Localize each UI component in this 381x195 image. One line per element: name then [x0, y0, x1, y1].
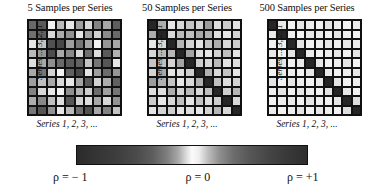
heatmap-cell — [65, 49, 74, 59]
y-axis-label: Series ... 3, 2, 1 — [274, 10, 284, 94]
heatmap-cell — [222, 68, 231, 78]
heatmap-cell — [204, 39, 213, 49]
panel-5-samples: 5 Samples per Series Series ... 3, 2, 1 … — [6, 0, 128, 140]
heatmap-cell — [93, 58, 102, 68]
heatmap-cell — [333, 30, 342, 40]
heatmap-cell — [342, 87, 351, 97]
heatmap-cell — [84, 39, 93, 49]
heatmap-cell — [176, 58, 185, 68]
heatmap-cell — [287, 87, 296, 97]
heatmap-cell — [315, 77, 324, 87]
heatmap-cell — [167, 87, 176, 97]
heatmap-cell — [185, 87, 194, 97]
heatmap-cell — [47, 39, 56, 49]
heatmap-cell — [185, 39, 194, 49]
heatmap-cell — [232, 58, 241, 68]
panels-row: 5 Samples per Series Series ... 3, 2, 1 … — [0, 0, 381, 140]
heatmap-cell — [204, 87, 213, 97]
heatmap-cell — [75, 87, 84, 97]
heatmap-cell — [112, 49, 121, 59]
colorbar-label-min: ρ = − 1 — [53, 168, 143, 186]
heatmap-cell — [157, 96, 166, 106]
heatmap-cell — [222, 20, 231, 30]
heatmap-cell — [167, 96, 176, 106]
heatmap-cell — [102, 106, 111, 116]
heatmap-cell — [296, 68, 305, 78]
heatmap-cell — [176, 77, 185, 87]
heatmap-cell — [65, 68, 74, 78]
heatmap-cell — [204, 20, 213, 30]
heatmap-cell — [232, 30, 241, 40]
heatmap-cell — [47, 58, 56, 68]
heatmap-cell — [185, 58, 194, 68]
heatmap-cell — [112, 58, 121, 68]
heatmap-cell — [47, 87, 56, 97]
heatmap-cell — [315, 87, 324, 97]
heatmap-cell — [65, 20, 74, 30]
heatmap-cell — [75, 30, 84, 40]
heatmap-cell — [315, 49, 324, 59]
heatmap-cell — [75, 96, 84, 106]
heatmap-cell — [167, 77, 176, 87]
heatmap-wrapper-0: Series ... 3, 2, 1 — [27, 19, 122, 116]
heatmap-cell — [56, 49, 65, 59]
heatmap-cell — [102, 30, 111, 40]
heatmap-cell — [352, 96, 361, 106]
heatmap-cell — [222, 39, 231, 49]
heatmap-cell — [232, 20, 241, 30]
heatmap-cell — [112, 106, 121, 116]
heatmap-cell — [167, 20, 176, 30]
heatmap-cell — [167, 106, 176, 116]
heatmap-cell — [75, 68, 84, 78]
heatmap-cell — [324, 30, 333, 40]
heatmap-cell — [195, 39, 204, 49]
heatmap-cell — [75, 77, 84, 87]
heatmap-cell — [93, 30, 102, 40]
heatmap-cell — [342, 20, 351, 30]
heatmap-cell — [47, 106, 56, 116]
heatmap-cell — [102, 77, 111, 87]
heatmap-cell — [185, 49, 194, 59]
heatmap-cell — [102, 49, 111, 59]
heatmap-cell — [112, 30, 121, 40]
panel-50-samples: 50 Samples per Series Series ... 3, 2, 1… — [126, 0, 248, 140]
heatmap-cell — [204, 58, 213, 68]
heatmap-cell — [75, 49, 84, 59]
heatmap-cell — [75, 58, 84, 68]
panel-500-samples: 500 Samples per Series Series ... 3, 2, … — [246, 0, 368, 140]
heatmap-wrapper-2: Series ... 3, 2, 1 — [267, 19, 362, 116]
heatmap-cell — [167, 49, 176, 59]
heatmap-cell — [56, 77, 65, 87]
heatmap-cell — [213, 77, 222, 87]
heatmap-cell — [324, 68, 333, 78]
heatmap-cell — [102, 39, 111, 49]
heatmap-cell — [93, 49, 102, 59]
heatmap-cell — [37, 106, 46, 116]
heatmap-cell — [333, 20, 342, 30]
heatmap-cell — [47, 30, 56, 40]
heatmap-cell — [28, 106, 37, 116]
heatmap-cell — [204, 96, 213, 106]
heatmap-cell — [315, 96, 324, 106]
heatmap-cell — [102, 87, 111, 97]
heatmap-cell — [176, 20, 185, 30]
heatmap-cell — [56, 68, 65, 78]
colorbar-tick-labels: ρ = − 1 ρ = 0 ρ = +1 — [0, 168, 381, 190]
heatmap-cell — [195, 77, 204, 87]
heatmap-cell — [305, 49, 314, 59]
heatmap-cell — [352, 106, 361, 116]
heatmap-cell — [185, 96, 194, 106]
heatmap-cell — [47, 68, 56, 78]
heatmap-cell — [296, 77, 305, 87]
heatmap-cell — [287, 58, 296, 68]
heatmap-cell — [287, 49, 296, 59]
heatmap-cell — [296, 20, 305, 30]
panel-title: 500 Samples per Series — [244, 2, 370, 14]
heatmap-cell — [185, 68, 194, 78]
heatmap-cell — [305, 77, 314, 87]
heatmap-cell — [277, 96, 286, 106]
heatmap-cell — [102, 68, 111, 78]
heatmap-cell — [232, 68, 241, 78]
heatmap-cell — [56, 87, 65, 97]
heatmap-cell — [305, 87, 314, 97]
